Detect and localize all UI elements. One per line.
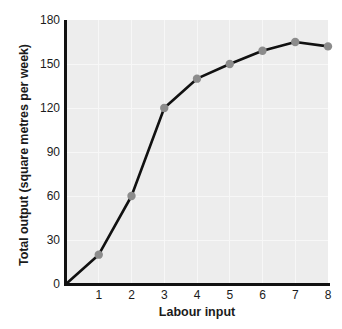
x-tick-label: 7 — [283, 288, 307, 302]
x-tick-label: 2 — [120, 288, 144, 302]
chart-figure: 0306090120150180 12345678 Total output (… — [0, 0, 342, 329]
x-tick-labels: 12345678 — [0, 0, 342, 329]
x-tick-label: 5 — [218, 288, 242, 302]
x-tick-label: 8 — [316, 288, 340, 302]
y-axis-title: Total output (square metres per week) — [17, 25, 31, 285]
x-tick-label: 3 — [152, 288, 176, 302]
x-tick-label: 1 — [87, 288, 111, 302]
x-tick-label: 4 — [185, 288, 209, 302]
x-tick-label: 6 — [251, 288, 275, 302]
x-axis-title: Labour input — [66, 305, 328, 319]
